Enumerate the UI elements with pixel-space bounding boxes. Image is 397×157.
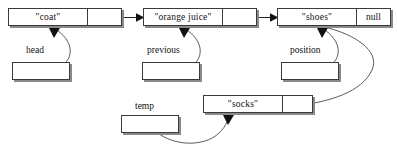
arrowhead-previous-to-orange-juice [179, 27, 191, 38]
node-data-coat: "coat" [9, 9, 87, 25]
list-node-shoes[interactable]: "shoes" null [277, 8, 391, 26]
variable-box-position[interactable] [281, 62, 339, 80]
arrowhead-position-to-shoes [317, 27, 329, 38]
variable-box-head[interactable] [12, 62, 70, 80]
list-node-socks[interactable]: "socks" [203, 95, 313, 113]
arrowhead-head-to-coat [49, 27, 61, 38]
variable-box-previous[interactable] [142, 62, 200, 80]
node-pointer-orange-juice [222, 9, 256, 25]
variable-label-position: position [290, 45, 321, 55]
arrowhead-temp-to-socks [223, 114, 235, 125]
node-data-orange-juice: "orange juice" [144, 9, 222, 25]
node-pointer-socks [282, 96, 312, 112]
variable-label-previous: previous [147, 45, 180, 55]
node-pointer-shoes: null [356, 9, 390, 25]
list-node-orange-juice[interactable]: "orange juice" [143, 8, 257, 26]
variable-label-temp: temp [135, 101, 154, 111]
diagram-canvas: "coat" "orange juice" "shoes" null "sock… [0, 0, 397, 157]
variable-label-head: head [26, 45, 44, 55]
node-data-shoes: "shoes" [278, 9, 356, 25]
node-pointer-coat [87, 9, 121, 25]
variable-box-temp[interactable] [121, 115, 179, 133]
list-node-coat[interactable]: "coat" [8, 8, 122, 26]
node-data-socks: "socks" [204, 96, 282, 112]
